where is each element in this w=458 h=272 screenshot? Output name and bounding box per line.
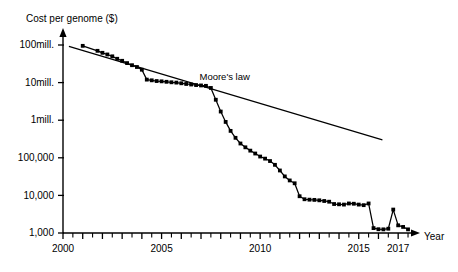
data-point-marker — [322, 199, 326, 203]
chart-annotations: Moore's law — [199, 71, 250, 82]
data-point-marker — [352, 202, 356, 206]
data-point-marker — [219, 110, 223, 114]
y-tick-label: 100mill. — [20, 39, 54, 50]
data-point-marker — [362, 203, 366, 207]
chart-canvas: Cost per genome ($) 100mill.10mill.1mill… — [0, 0, 458, 272]
data-point-marker — [204, 84, 208, 88]
x-axis: 20002005201020152017 — [52, 229, 420, 254]
y-tick-label: 1,000 — [29, 227, 54, 238]
y-axis: 100mill.10mill.1mill.100,00010,0001,000 — [18, 28, 67, 238]
data-point-marker — [386, 227, 390, 231]
cost-per-genome-chart: Cost per genome ($) 100mill.10mill.1mill… — [0, 0, 458, 272]
data-point-marker — [105, 53, 109, 57]
data-point-marker — [214, 98, 218, 102]
data-point-marker — [199, 84, 203, 88]
data-point-marker — [145, 78, 149, 82]
data-point-marker — [283, 175, 287, 179]
data-point-marker — [268, 159, 272, 163]
x-tick-label: 2000 — [52, 243, 75, 254]
data-point-marker — [273, 163, 277, 167]
data-point-marker — [317, 198, 321, 202]
data-point-marker — [377, 227, 381, 231]
data-point-marker — [327, 200, 331, 204]
data-point-marker — [81, 44, 85, 48]
data-point-marker — [263, 157, 267, 161]
data-point-marker — [278, 169, 282, 173]
data-point-marker — [189, 83, 193, 87]
x-axis-arrow — [411, 229, 420, 236]
data-point-marker — [243, 145, 247, 149]
data-point-marker — [332, 202, 336, 206]
y-tick-label: 10mill. — [25, 77, 54, 88]
data-point-marker — [150, 78, 154, 82]
x-tick-label: 2017 — [387, 243, 410, 254]
data-point-marker — [396, 223, 400, 227]
data-point-marker — [209, 86, 213, 90]
y-tick-label: 1mill. — [31, 114, 54, 125]
data-point-marker — [239, 142, 243, 146]
data-point-marker — [110, 54, 114, 58]
data-point-marker — [135, 65, 139, 69]
data-point-marker — [337, 202, 341, 206]
data-point-marker — [303, 197, 307, 201]
y-axis-arrow — [59, 28, 66, 37]
data-point-marker — [258, 155, 262, 159]
annotation-moores-law: Moore's law — [199, 71, 250, 82]
x-tick-label: 2010 — [249, 243, 272, 254]
data-point-marker — [308, 198, 312, 202]
data-point-marker — [406, 227, 410, 231]
y-tick-label: 100,000 — [18, 152, 55, 163]
data-point-marker — [372, 226, 376, 230]
data-point-marker — [170, 80, 174, 84]
data-point-marker — [224, 120, 228, 124]
x-axis-title: Year — [424, 231, 445, 242]
data-point-marker — [253, 152, 257, 156]
data-point-marker — [347, 202, 351, 206]
data-point-marker — [298, 194, 302, 198]
data-point-marker — [194, 83, 198, 87]
data-point-marker — [293, 181, 297, 185]
data-point-marker — [401, 225, 405, 229]
data-point-marker — [288, 179, 292, 183]
data-point-marker — [234, 136, 238, 140]
data-point-marker — [115, 57, 119, 61]
data-point-marker — [140, 68, 144, 72]
data-point-marker — [312, 198, 316, 202]
data-point-marker — [101, 51, 105, 55]
data-point-marker — [120, 59, 124, 63]
y-tick-label: 10,000 — [23, 190, 54, 201]
data-point-marker — [96, 49, 100, 53]
data-point-marker — [381, 227, 385, 231]
data-point-marker — [130, 63, 134, 67]
data-point-marker — [179, 81, 183, 85]
data-point-marker — [357, 203, 361, 207]
data-point-marker — [174, 81, 178, 85]
data-point-marker — [367, 202, 371, 206]
data-point-marker — [155, 79, 159, 83]
data-point-marker — [391, 208, 395, 212]
data-point-marker — [229, 129, 233, 133]
chart-title: Cost per genome ($) — [26, 13, 118, 24]
data-point-marker — [165, 80, 169, 84]
data-point-marker — [160, 79, 164, 83]
data-point-marker — [184, 82, 188, 86]
data-point-marker — [342, 203, 346, 207]
x-tick-label: 2015 — [348, 243, 371, 254]
x-tick-label: 2005 — [150, 243, 173, 254]
data-point-marker — [125, 61, 129, 65]
data-point-marker — [248, 149, 252, 153]
